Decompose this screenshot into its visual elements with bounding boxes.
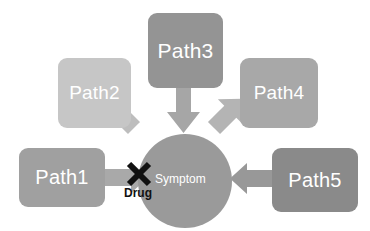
arrow-path3-symptom xyxy=(167,88,200,133)
node-path5-label: Path5 xyxy=(288,169,341,192)
node-path1[interactable]: Path1 xyxy=(19,148,105,207)
node-path3[interactable]: Path3 xyxy=(148,13,223,88)
node-path4-label: Path4 xyxy=(254,82,305,104)
node-path2-label: Path2 xyxy=(69,82,120,104)
node-path4[interactable]: Path4 xyxy=(240,58,318,128)
node-path3-label: Path3 xyxy=(158,39,214,63)
node-path1-label: Path1 xyxy=(35,166,88,189)
diagram-canvas: Path1 Path2 Path3 Path4 Path5 Symptom Dr… xyxy=(0,0,370,231)
node-path5[interactable]: Path5 xyxy=(272,148,358,212)
node-path2[interactable]: Path2 xyxy=(58,58,131,128)
drug-label: Drug xyxy=(124,186,152,200)
symptom-label: Symptom xyxy=(155,172,206,186)
arrow-path5-symptom xyxy=(230,163,274,194)
